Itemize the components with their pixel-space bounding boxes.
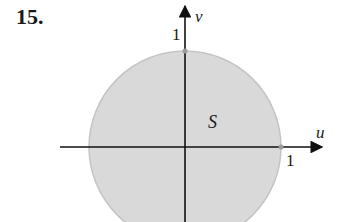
region-label: S — [208, 112, 217, 132]
u-axis-label: u — [316, 123, 325, 142]
u-intercept-point — [279, 145, 284, 150]
v-intercept-point — [183, 49, 188, 54]
u-tick-label: 1 — [286, 151, 295, 170]
v-axis-label: v — [195, 7, 203, 26]
region-diagram: v u 1 1 S — [0, 0, 342, 222]
v-tick-label: 1 — [172, 25, 181, 44]
